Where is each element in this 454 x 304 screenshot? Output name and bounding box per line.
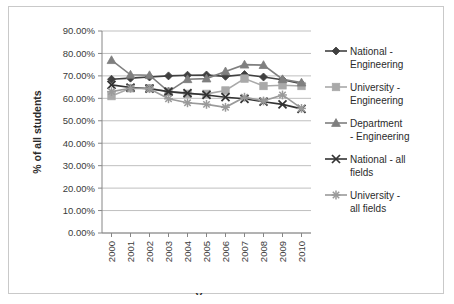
y-tick-label: 30.00% (63, 160, 96, 171)
data-point-marker (332, 47, 340, 55)
data-point-marker (164, 94, 173, 103)
x-tick-label: 2007 (239, 241, 250, 262)
y-tick-label: 20.00% (63, 183, 96, 194)
x-tick-label: 2010 (296, 241, 307, 262)
legend-label: National - (350, 46, 393, 57)
data-point-marker (260, 82, 267, 89)
y-tick-label: 40.00% (63, 138, 96, 149)
data-point-marker (240, 93, 249, 102)
legend-label: National - all (350, 154, 406, 165)
legend-label: University - (350, 82, 400, 93)
legend-label: fields (350, 167, 373, 178)
data-point-marker (332, 83, 339, 90)
x-tick-label: 2000 (106, 241, 117, 262)
y-axis-title: % of all students (31, 90, 43, 174)
x-tick-label: 2003 (163, 241, 174, 262)
y-gridlines: 0.00%10.00%20.00%30.00%40.00%50.00%60.00… (63, 25, 311, 238)
legend-item-4[interactable]: National - allfields (325, 154, 406, 178)
x-tick-label: 2001 (125, 241, 136, 262)
data-point-marker (241, 75, 248, 82)
x-tick-label: 2008 (258, 241, 269, 262)
chart-area: 0.00%10.00%20.00%30.00%40.00%50.00%60.00… (9, 7, 445, 295)
data-point-marker (260, 73, 268, 81)
data-point-marker (107, 87, 116, 96)
legend-label: Engineering (350, 59, 403, 70)
legend-item-3[interactable]: Department- Engineering (325, 118, 409, 142)
y-tick-label: 70.00% (63, 70, 96, 81)
y-tick-label: 90.00% (63, 25, 96, 36)
legend-label: Department (350, 118, 402, 129)
chart-legend: National -EngineeringUniversity -Enginee… (325, 46, 409, 214)
legend-label: all fields (350, 203, 386, 214)
legend-label: University - (350, 190, 400, 201)
data-point-marker (165, 72, 173, 80)
x-tick-label: 2002 (144, 241, 155, 262)
y-tick-label: 50.00% (63, 115, 96, 126)
legend-label: Engineering (350, 95, 403, 106)
data-point-marker (222, 87, 229, 94)
data-point-marker (221, 103, 230, 112)
legend-item-2[interactable]: University -Engineering (325, 82, 403, 106)
data-point-marker (278, 91, 287, 100)
x-axis-title: Year (195, 291, 217, 295)
y-tick-label: 0.00% (68, 227, 95, 238)
data-point-marker (145, 84, 154, 93)
data-point-marker (259, 97, 268, 106)
data-point-marker (107, 56, 116, 64)
y-tick-label: 60.00% (63, 93, 96, 104)
data-point-marker (332, 191, 341, 200)
data-point-marker (126, 84, 135, 93)
legend-label: - Engineering (350, 131, 409, 142)
legend-item-5[interactable]: University -all fields (325, 190, 400, 214)
x-tick-label: 2005 (201, 241, 212, 262)
x-tick-labels: 2000200120022003200420052006200720082009… (106, 233, 307, 262)
y-tick-label: 80.00% (63, 48, 96, 59)
data-point-marker (183, 98, 192, 107)
y-tick-label: 10.00% (63, 205, 96, 216)
line-chart: 0.00%10.00%20.00%30.00%40.00%50.00%60.00… (9, 7, 445, 295)
x-tick-label: 2009 (277, 241, 288, 262)
x-tick-label: 2004 (182, 241, 193, 262)
legend-item-1[interactable]: National -Engineering (325, 46, 403, 70)
data-point-marker (297, 104, 306, 113)
data-point-marker (202, 100, 211, 109)
x-tick-label: 2006 (220, 241, 231, 262)
chart-frame: 0.00%10.00%20.00%30.00%40.00%50.00%60.00… (8, 6, 444, 294)
